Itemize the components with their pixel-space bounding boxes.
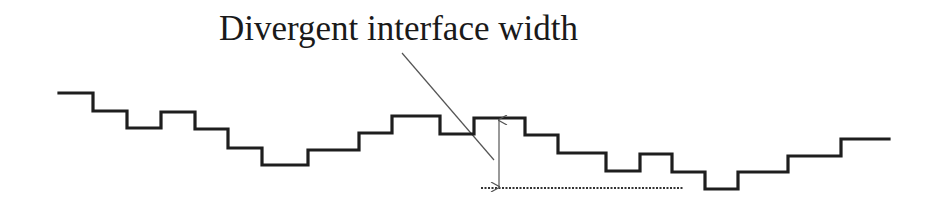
diagram-canvas: Divergent interface width xyxy=(0,0,937,207)
leader-line xyxy=(402,53,494,160)
interface-figure xyxy=(0,0,937,207)
stepped-interface-line xyxy=(59,93,889,189)
